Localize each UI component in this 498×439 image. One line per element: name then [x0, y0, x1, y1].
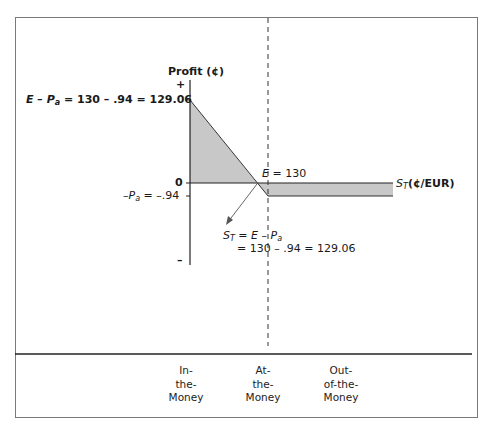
strike-label: E = 130: [262, 168, 306, 179]
minus-marker: –: [177, 255, 183, 266]
zone-in-the-money: In-the-Money: [151, 364, 221, 405]
plus-marker: +: [176, 79, 185, 90]
loss-area: [257, 183, 393, 196]
zone-at-the-money: At-the-Money: [228, 364, 298, 405]
breakeven-arrow: [228, 184, 257, 222]
zone-out-of-the-money: Out-of-the-Money: [306, 364, 376, 405]
zero-label: 0: [175, 177, 183, 188]
premium-label: –Pa = –.94: [123, 190, 179, 203]
breakeven-label-line2: = 130 – .94 = 129.06: [237, 243, 355, 254]
y-axis-label: Profit (¢): [168, 66, 224, 77]
max-profit-label: E – Pa = 130 – .94 = 129.06: [26, 94, 192, 107]
x-axis-label: ST(¢/EUR): [396, 178, 455, 191]
